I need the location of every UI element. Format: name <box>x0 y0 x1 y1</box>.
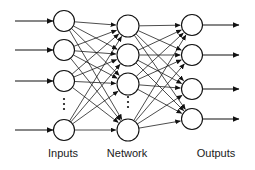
connection-edge <box>136 34 184 81</box>
connection-edge <box>73 91 118 124</box>
layer-captions: InputsNetworkOutputs <box>48 147 236 159</box>
ellipsis-dots <box>63 96 129 110</box>
layer-caption-network: Network <box>107 147 148 159</box>
layer-caption-inputs: Inputs <box>48 147 78 159</box>
neuron-node <box>54 40 75 61</box>
connection-edge <box>69 30 121 119</box>
ellipsis-dot <box>63 103 65 105</box>
neuron-node <box>117 15 139 37</box>
neuron-node <box>182 45 203 66</box>
connection-edge <box>75 22 116 25</box>
connection-edge <box>75 82 116 84</box>
neuron-node <box>117 44 139 66</box>
ellipsis-dot <box>127 106 129 108</box>
connection-edge <box>74 30 116 46</box>
neuron-node <box>54 120 75 141</box>
connection-edge <box>138 60 181 80</box>
connection-edge <box>139 121 180 128</box>
neuron-node <box>182 109 203 130</box>
neural-network-diagram: InputsNetworkOutputs <box>0 0 255 170</box>
connection-edge <box>71 64 120 122</box>
neural-network-figure: InputsNetworkOutputs <box>0 0 255 170</box>
connection-edge <box>70 36 122 120</box>
neuron-node <box>117 73 139 95</box>
neuron-node <box>182 79 203 100</box>
neuron-node <box>182 15 203 36</box>
layer-caption-outputs: Outputs <box>197 147 236 159</box>
neuron-node <box>54 71 75 92</box>
connection-edge <box>139 25 180 26</box>
connection-edge <box>139 85 180 88</box>
ellipsis-dot <box>127 96 129 98</box>
ellipsis-dot <box>127 101 129 103</box>
ellipsis-dot <box>63 98 65 100</box>
connection-edge <box>74 26 118 49</box>
neuron-node <box>117 119 139 141</box>
ellipsis-dot <box>63 108 65 110</box>
connection-edge <box>71 58 121 120</box>
neuron-node <box>54 11 75 32</box>
